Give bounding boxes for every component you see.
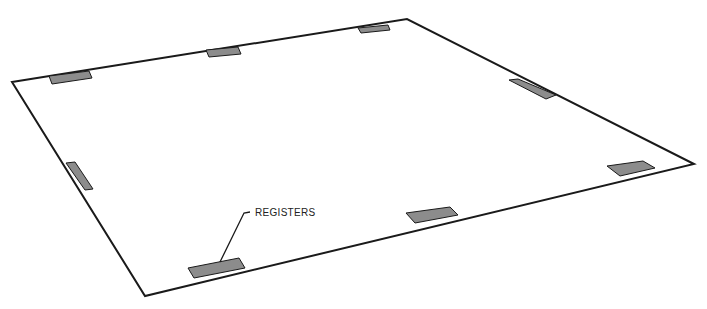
sheet-outline [12, 19, 694, 296]
diagram-canvas [0, 0, 707, 309]
register-top-middle [206, 47, 241, 57]
callout-leader-line [220, 212, 250, 262]
register-group [49, 25, 655, 278]
register-top-left [49, 71, 92, 84]
register-bottom-middle [406, 207, 458, 223]
registers-label: REGISTERS [255, 207, 316, 218]
register-right-lower [607, 161, 655, 176]
